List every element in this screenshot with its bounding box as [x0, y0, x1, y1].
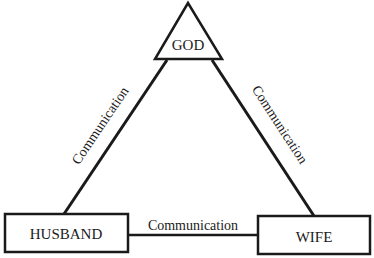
edge-husband-god [64, 60, 167, 214]
god-label: GOD [172, 37, 205, 53]
husband-label: HUSBAND [30, 226, 103, 242]
triangle-diagram: GOD HUSBAND WIFE Communication Communica… [0, 0, 374, 258]
wife-label: WIFE [296, 229, 333, 245]
edge-label-god-wife: Communication [249, 83, 311, 167]
edge-label-husband-wife: Communication [148, 218, 238, 233]
